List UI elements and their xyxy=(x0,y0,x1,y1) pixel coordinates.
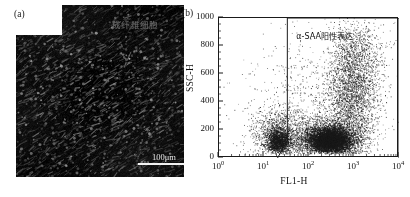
panel-a-micrograph: 成纤维细胞 100μm (a) xyxy=(0,0,200,197)
y-tick-label: 400 xyxy=(184,95,214,105)
y-tick-label: 600 xyxy=(184,67,214,77)
micrograph-overlay-text: 成纤维细胞 xyxy=(112,18,159,30)
y-tick-label: 200 xyxy=(184,123,214,133)
panel-a-label: (a) xyxy=(14,9,25,19)
y-tick-label: 800 xyxy=(184,39,214,49)
panel-b-scatter: (b) SSC-H α-SAA阳性表达 FL1-H 02004006008001… xyxy=(178,0,410,197)
scalebar-line xyxy=(138,163,184,165)
x-tick-label: 102 xyxy=(295,161,321,171)
scalebar: 100μm xyxy=(138,152,184,165)
x-tick-label: 101 xyxy=(250,161,276,171)
gate-region-label: α-SAA阳性表达 xyxy=(296,30,353,41)
micrograph-image: 成纤维细胞 100μm xyxy=(16,5,184,177)
x-tick-label: 103 xyxy=(340,161,366,171)
y-tick-label: 0 xyxy=(184,151,214,161)
x-tick-label: 104 xyxy=(385,161,410,171)
figure-container: 成纤维细胞 100μm (a) (b) SSC-H α-SAA阳性表达 FL1-… xyxy=(0,0,410,197)
scalebar-label: 100μm xyxy=(138,152,184,162)
x-axis-label: FL1-H xyxy=(178,176,410,186)
x-tick-label: 100 xyxy=(205,161,231,171)
y-tick-label: 1000 xyxy=(184,11,214,21)
